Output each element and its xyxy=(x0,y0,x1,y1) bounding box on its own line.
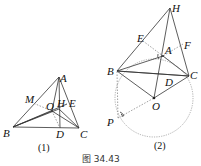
point-a xyxy=(162,55,164,57)
label-f: F xyxy=(183,39,191,51)
segment-ea xyxy=(143,41,163,56)
point-o xyxy=(153,97,156,100)
label-d: D xyxy=(55,128,64,140)
segment-bo xyxy=(117,71,154,98)
angle-mark-a xyxy=(158,54,159,59)
label-c: C xyxy=(80,128,88,140)
label-h: H xyxy=(56,97,66,109)
label-d: D xyxy=(164,76,173,88)
segment-ab xyxy=(117,56,163,71)
label-m: M xyxy=(24,93,35,105)
label-e: E xyxy=(136,32,144,44)
segment-bc xyxy=(117,71,189,76)
label-b: B xyxy=(3,127,10,139)
label-h: H xyxy=(171,2,181,14)
figure-2: H E A F B C D O P (2) xyxy=(106,2,198,152)
figure-1-label: (1) xyxy=(38,142,50,154)
label-o: O xyxy=(152,100,160,112)
figure-caption: 图 34.43 xyxy=(82,154,120,164)
label-a: A xyxy=(164,44,172,56)
label-p: P xyxy=(106,116,114,128)
label-o: O xyxy=(46,100,54,112)
figure-1: A B C D E H M O (1) xyxy=(3,72,88,154)
label-b: B xyxy=(107,65,114,77)
geometry-figure: A B C D E H M O (1) xyxy=(0,0,201,166)
label-c: C xyxy=(190,69,198,81)
label-e: E xyxy=(68,97,76,109)
label-a: A xyxy=(59,72,67,84)
triangle-hbc xyxy=(117,8,189,76)
segment-ch xyxy=(59,109,79,128)
figure-2-label: (2) xyxy=(154,140,166,152)
